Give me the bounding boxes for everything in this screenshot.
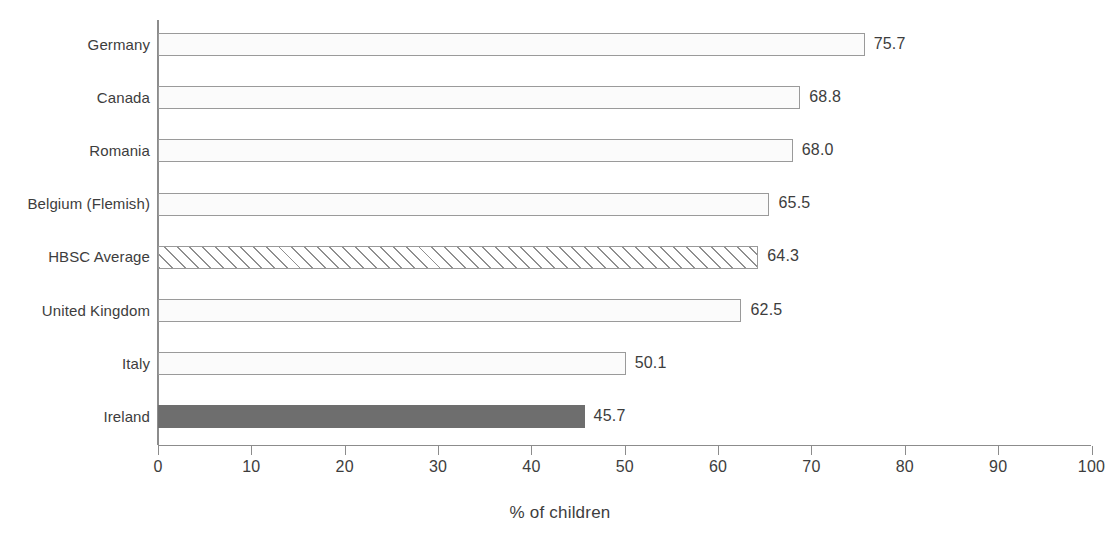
bar-row: Romania68.0 [0, 126, 1120, 179]
x-axis-tick [905, 446, 906, 455]
bar-row: Italy50.1 [0, 339, 1120, 392]
x-axis-tick-label: 20 [336, 458, 354, 476]
x-axis-tick [438, 446, 439, 455]
category-label: Germany [0, 36, 150, 53]
x-axis-tick [718, 446, 719, 455]
x-axis-title: % of children [0, 503, 1120, 523]
x-axis-tick [1092, 446, 1093, 455]
category-label: Romania [0, 142, 150, 159]
x-axis-tick-label: 10 [242, 458, 260, 476]
bar-row: Germany75.7 [0, 20, 1120, 73]
x-axis-tick-label: 90 [989, 458, 1007, 476]
bar-value-label: 50.1 [635, 354, 667, 372]
bar-value-label: 68.0 [802, 141, 834, 159]
bar-germany [158, 33, 865, 56]
x-axis-tick [345, 446, 346, 455]
x-axis-tick [998, 446, 999, 455]
bar-belgium-flemish [158, 193, 769, 216]
bar-italy [158, 352, 626, 375]
category-label: Italy [0, 355, 150, 372]
x-axis-tick-label: 30 [429, 458, 447, 476]
bar-united-kingdom [158, 299, 741, 322]
bar-value-label: 64.3 [767, 247, 799, 265]
category-label: Canada [0, 89, 150, 106]
x-axis-tick [251, 446, 252, 455]
bar-value-label: 68.8 [809, 88, 841, 106]
x-axis-tick-label: 50 [616, 458, 634, 476]
category-label: Ireland [0, 408, 150, 425]
bar-romania [158, 139, 793, 162]
category-label: HBSC Average [0, 248, 150, 265]
x-axis-tick [158, 446, 159, 455]
bar-ireland [158, 405, 585, 428]
bar-value-label: 45.7 [594, 407, 626, 425]
bar-value-label: 75.7 [874, 35, 906, 53]
bar-row: Ireland45.7 [0, 392, 1120, 445]
bar-chart: Germany75.7Canada68.8Romania68.0Belgium … [0, 0, 1120, 544]
x-axis-tick-label: 40 [522, 458, 540, 476]
bar-row: Belgium (Flemish)65.5 [0, 180, 1120, 233]
bar-hbsc-average [158, 246, 758, 269]
x-axis-tick [531, 446, 532, 455]
bar-row: United Kingdom62.5 [0, 286, 1120, 339]
category-label: Belgium (Flemish) [0, 195, 150, 212]
x-axis-tick-label: 0 [153, 458, 162, 476]
x-axis-tick [811, 446, 812, 455]
x-axis-tick-label: 100 [1078, 458, 1105, 476]
bar-value-label: 65.5 [778, 194, 810, 212]
x-axis-tick-label: 80 [896, 458, 914, 476]
bar-value-label: 62.5 [750, 301, 782, 319]
bar-row: HBSC Average64.3 [0, 233, 1120, 286]
x-axis-tick-label: 60 [709, 458, 727, 476]
bar-row: Canada68.8 [0, 73, 1120, 126]
bar-canada [158, 86, 800, 109]
x-axis-tick-label: 70 [802, 458, 820, 476]
category-label: United Kingdom [0, 302, 150, 319]
x-axis-tick [625, 446, 626, 455]
